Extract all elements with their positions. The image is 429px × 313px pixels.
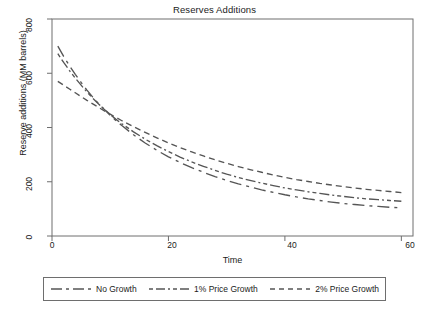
legend-swatch-short-dash-icon [269, 284, 311, 294]
x-tick-label: 40 [277, 240, 307, 250]
legend-entry-no-growth[interactable]: No Growth [50, 284, 137, 294]
y-tick-label: 0 [24, 226, 34, 248]
legend-label: 1% Price Growth [194, 284, 258, 294]
x-tick-label: 0 [37, 240, 67, 250]
chart-title: Reserves Additions [0, 4, 429, 15]
x-tick-label: 20 [157, 240, 187, 250]
series-line [58, 46, 402, 208]
legend-label: 2% Price Growth [315, 284, 379, 294]
series-line [58, 81, 402, 192]
legend-swatch-dash-dot-icon [148, 284, 190, 294]
x-tick-label: 60 [395, 240, 425, 250]
legend-label: No Growth [96, 284, 137, 294]
data-series-group [58, 46, 402, 208]
y-tick-label: 800 [24, 14, 34, 36]
plot-frame [52, 19, 413, 236]
plot-canvas [0, 0, 429, 313]
legend: No Growth 1% Price Growth 2% Price Growt… [43, 277, 386, 301]
legend-entry-2pct-price-growth[interactable]: 2% Price Growth [269, 284, 379, 294]
y-tick-label: 200 [24, 173, 34, 195]
legend-swatch-long-dash-icon [50, 284, 92, 294]
series-line [58, 54, 402, 202]
y-tick-label: 400 [24, 120, 34, 142]
chart-figure: Reserves Additions Reserve additions (MM… [0, 0, 429, 313]
legend-entry-1pct-price-growth[interactable]: 1% Price Growth [148, 284, 258, 294]
axis-ticks [47, 19, 401, 241]
x-axis-label: Time [52, 255, 413, 265]
y-tick-label: 600 [24, 67, 34, 89]
